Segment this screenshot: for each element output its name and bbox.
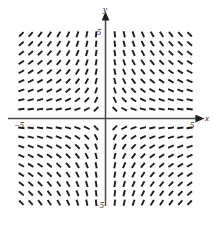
direction-field-segment — [46, 136, 52, 138]
direction-field-segment — [28, 109, 34, 110]
x-axis-tick-label-positive-5: 5 — [190, 120, 194, 130]
direction-field-segment — [132, 79, 136, 84]
direction-field-segment — [67, 191, 70, 197]
direction-field-segment — [121, 126, 127, 129]
direction-field-segment — [57, 60, 61, 65]
direction-field-segment — [57, 172, 61, 177]
direction-field-segment — [84, 126, 90, 129]
direction-field-segment — [169, 51, 173, 55]
direction-field-segment — [140, 127, 146, 129]
direction-field-segment — [57, 163, 61, 167]
direction-field-segment — [178, 191, 182, 195]
direction-field-segment — [28, 164, 33, 167]
direction-field-segment — [132, 181, 134, 187]
direction-field-segment — [132, 50, 134, 56]
direction-field-segment — [86, 172, 88, 178]
direction-field-segment — [131, 98, 136, 101]
direction-field-segment — [187, 137, 193, 138]
direction-field-segment — [140, 98, 146, 101]
direction-field-segment — [47, 79, 52, 82]
direction-field-segment — [75, 98, 80, 101]
direction-field-segment — [66, 145, 71, 149]
direction-field-segment — [169, 41, 173, 46]
direction-field-segment — [187, 42, 192, 46]
direction-field-segment — [168, 154, 173, 157]
direction-field-segment — [37, 154, 42, 157]
direction-field-segment — [150, 163, 154, 167]
direction-field-segment — [150, 181, 154, 186]
direction-field-segment — [187, 32, 191, 36]
direction-field-segment — [76, 69, 79, 74]
direction-field-segment — [85, 78, 88, 84]
direction-field-segment — [56, 136, 62, 138]
direction-field-segment — [19, 191, 24, 195]
direction-field-segment — [29, 200, 33, 205]
direction-field-segment — [160, 191, 164, 196]
direction-field-segment — [114, 181, 115, 187]
direction-field-segment — [168, 109, 174, 110]
direction-field-segment — [28, 127, 34, 128]
direction-field-segment — [67, 41, 70, 47]
direction-field-segment — [48, 41, 52, 46]
direction-field-segment — [28, 155, 34, 158]
x-axis-tick-label-negative-5: −5 — [14, 120, 24, 130]
direction-field-segment — [38, 173, 43, 177]
direction-field-segment — [113, 97, 116, 103]
direction-field-segment — [187, 51, 192, 55]
direction-field-segment — [123, 78, 126, 84]
direction-field-segment — [123, 59, 125, 65]
direction-field-segment — [95, 144, 97, 150]
direction-field-segment — [159, 154, 164, 157]
direction-field-segment — [96, 181, 97, 187]
x-axis-label: x — [204, 113, 209, 123]
direction-field-segment — [28, 136, 34, 138]
direction-field-segment — [187, 146, 193, 148]
direction-field-segment — [168, 80, 173, 83]
direction-field-segment — [132, 190, 134, 196]
direction-field-segment — [168, 136, 174, 138]
direction-field-segment — [187, 99, 193, 100]
direction-field-segment — [28, 182, 33, 186]
direction-field-segment — [150, 79, 155, 83]
direction-field-segment — [131, 135, 136, 138]
direction-field-segment — [141, 154, 145, 158]
direction-field-segment — [113, 134, 116, 140]
direction-field-segment — [96, 69, 97, 75]
direction-field-segment — [29, 191, 33, 195]
direction-field-segment — [187, 70, 192, 73]
direction-field-segment — [132, 153, 136, 158]
direction-field-segment — [141, 181, 144, 186]
direction-field-segment — [65, 98, 71, 101]
direction-field-segment — [150, 51, 154, 56]
direction-field-segment — [123, 190, 125, 196]
direction-field-segment — [142, 200, 145, 206]
direction-field-segment — [177, 145, 183, 147]
direction-field-segment — [114, 59, 115, 65]
direction-field-segment — [150, 172, 154, 177]
direction-field-segment — [38, 60, 43, 64]
direction-field-segment — [177, 136, 183, 138]
y-axis-tick-label-negative-5: −5 — [94, 200, 104, 210]
direction-field-segment — [141, 79, 145, 83]
direction-field-segment — [47, 89, 53, 92]
direction-field-segment — [149, 127, 155, 128]
direction-field-segment — [67, 50, 70, 55]
direction-field-segment — [159, 89, 165, 92]
direction-field-segment — [123, 162, 125, 168]
direction-field-segment — [47, 172, 51, 176]
direction-field-segment — [168, 70, 173, 74]
direction-field-segment — [132, 172, 135, 178]
direction-field-segment — [29, 42, 33, 46]
direction-field-segment — [132, 60, 135, 66]
direction-field-segment — [168, 89, 174, 91]
direction-field-segment — [149, 136, 155, 138]
direction-field-segment — [29, 32, 33, 37]
direction-field-segment — [86, 41, 88, 47]
axes-group — [8, 20, 196, 206]
direction-field-segment — [160, 41, 164, 46]
direction-field-segment — [85, 88, 88, 93]
direction-field-segment — [95, 78, 97, 84]
direction-field-segment — [178, 200, 182, 205]
direction-field-segment — [177, 99, 183, 101]
direction-field-segment — [18, 99, 24, 100]
